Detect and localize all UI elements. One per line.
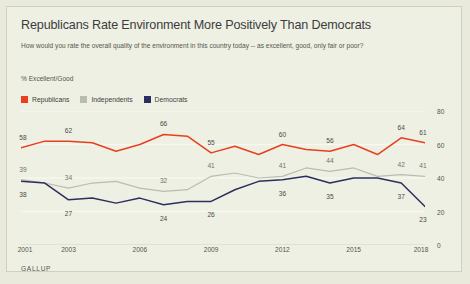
- x-tick-label: 2009: [204, 246, 219, 253]
- legend-label-democrats: Democrats: [155, 96, 188, 103]
- legend-item-republicans[interactable]: Republicans: [21, 96, 69, 103]
- y-tick-label: 0: [437, 242, 441, 249]
- x-tick-label: 2006: [132, 246, 147, 253]
- x-tick-label: 2001: [18, 246, 33, 253]
- chart-legend: Republicans Independents Democrats: [21, 96, 187, 103]
- chart-subtitle: How would you rate the overall quality o…: [21, 40, 411, 51]
- data-label: 55: [207, 138, 214, 145]
- data-label: 41: [279, 162, 286, 169]
- data-label: 26: [207, 211, 214, 218]
- data-label: 61: [419, 128, 426, 135]
- y-tick-label: 80: [437, 108, 444, 115]
- legend-item-independents[interactable]: Independents: [80, 96, 132, 103]
- page-title: Republicans Rate Environment More Positi…: [21, 18, 371, 32]
- data-label: 66: [160, 120, 167, 127]
- x-tick-label: 2018: [414, 246, 429, 253]
- data-label: 24: [160, 214, 167, 221]
- chart-unit-label: % Excellent/Good: [21, 75, 73, 82]
- data-label: 23: [419, 216, 426, 223]
- legend-swatch-democrats: [144, 96, 151, 103]
- legend-label-republicans: Republicans: [32, 96, 69, 103]
- legend-swatch-independents: [80, 96, 87, 103]
- data-label: 41: [419, 162, 426, 169]
- data-label: 44: [326, 157, 333, 164]
- legend-item-democrats[interactable]: Democrats: [144, 96, 188, 103]
- data-label: 39: [19, 165, 26, 172]
- data-label: 35: [326, 193, 333, 200]
- x-tick-label: 2003: [61, 246, 76, 253]
- data-label: 38: [19, 191, 26, 198]
- source-attribution: GALLUP: [21, 265, 51, 272]
- y-tick-label: 40: [437, 175, 444, 182]
- data-label: 37: [398, 193, 405, 200]
- data-label: 42: [398, 160, 405, 167]
- y-tick-label: 60: [437, 141, 444, 148]
- data-label: 64: [398, 123, 405, 130]
- y-axis: 020406080: [431, 111, 457, 245]
- data-label: 41: [207, 162, 214, 169]
- legend-label-independents: Independents: [91, 96, 132, 103]
- series-line-democrats: [21, 176, 425, 206]
- data-label: 34: [65, 174, 72, 181]
- data-label: 62: [65, 127, 72, 134]
- legend-swatch-republicans: [21, 96, 28, 103]
- x-tick-label: 2015: [346, 246, 361, 253]
- chart-svg: [21, 111, 425, 245]
- data-label: 58: [19, 133, 26, 140]
- x-axis: 2001200320062009201220152018: [21, 246, 425, 260]
- data-label: 56: [326, 137, 333, 144]
- data-label: 60: [279, 130, 286, 137]
- data-label: 32: [160, 177, 167, 184]
- series-line-independents: [21, 168, 425, 191]
- data-label: 27: [65, 209, 72, 216]
- chart-plot-area: 5862665560566461393432414144424138272426…: [21, 111, 425, 245]
- data-label: 36: [279, 189, 286, 196]
- y-tick-label: 20: [437, 208, 444, 215]
- x-tick-label: 2012: [275, 246, 290, 253]
- chart-card: Republicans Rate Environment More Positi…: [6, 6, 462, 272]
